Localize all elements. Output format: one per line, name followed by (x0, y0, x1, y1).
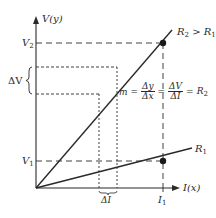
r1-label-text: R (195, 143, 203, 154)
equation-fraction-dy-dx: Δy Δx (141, 82, 155, 102)
r2-label-suffix: > R (189, 26, 211, 37)
equation-lhs: m = (119, 87, 138, 97)
r1-label-sub: 1 (203, 148, 207, 156)
delta-i-label: ΔI (101, 196, 111, 205)
delta-v-label: ΔV (8, 76, 22, 86)
x-axis-arrow-icon (172, 185, 180, 191)
equation-rhs: R2 (197, 86, 208, 98)
r1-point (160, 158, 166, 164)
v2-tick-sub: 2 (29, 42, 33, 50)
equation-eq1: = (158, 87, 166, 97)
v1-tick-sub: 1 (29, 160, 33, 168)
equation-frac1-den: Δx (142, 92, 154, 101)
r1-line (36, 148, 192, 188)
slope-equation: m = Δy Δx = ΔV ΔI = R2 (119, 82, 208, 102)
r2-line (36, 30, 172, 188)
equation-fraction-dv-di: ΔV ΔI (168, 82, 183, 102)
y-axis-arrow-icon (33, 16, 39, 24)
equation-eq2: = (186, 87, 194, 97)
r2-line-label: R2 > R1 (177, 27, 216, 39)
r2-label-suffix-sub: 1 (211, 31, 215, 39)
y-axis-label: V(y) (42, 14, 63, 24)
r2-point (160, 40, 166, 46)
i1-tick-label: I1 (158, 195, 166, 207)
v1-tick-label: V1 (22, 156, 34, 168)
equation-frac2-den: ΔI (171, 92, 181, 101)
i1-tick-sub: 1 (162, 199, 166, 207)
equation-rhs-sub: 2 (203, 90, 207, 98)
x-axis-label: I(x) (183, 183, 200, 193)
r1-line-label: R1 (195, 144, 207, 156)
r2-label-text: R (177, 26, 185, 37)
delta-v-brace-icon (26, 67, 32, 94)
v2-tick-label: V2 (22, 38, 34, 50)
